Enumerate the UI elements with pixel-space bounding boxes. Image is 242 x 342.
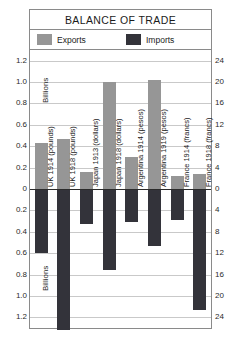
axis-tick-right: 8 bbox=[215, 228, 219, 236]
axis-tick-right: 12 bbox=[215, 249, 224, 257]
bar-category-label: France 1918 (francs) bbox=[204, 117, 213, 187]
axis-tick-left: 1.0 bbox=[16, 78, 27, 86]
axis-tick-left: 0.4 bbox=[16, 228, 27, 236]
legend-label-imports: Imports bbox=[146, 35, 174, 45]
axis-tick-right: 20 bbox=[215, 292, 224, 300]
bar-category-label: France 1914 (francs) bbox=[182, 117, 191, 187]
gridline bbox=[30, 82, 211, 83]
legend-swatch-imports bbox=[126, 34, 141, 45]
bar-imports bbox=[148, 189, 161, 246]
bar-imports bbox=[57, 189, 70, 330]
zero-axis-line bbox=[30, 189, 211, 190]
axis-tick-left: 0 bbox=[23, 185, 27, 193]
plot-area bbox=[30, 50, 211, 328]
bar-category-label: Japan 1918 (dollars) bbox=[114, 119, 123, 187]
axis-tick-right: 16 bbox=[215, 99, 224, 107]
axis-tick-right: 16 bbox=[215, 271, 224, 279]
axis-tick-left: 0.8 bbox=[16, 271, 27, 279]
axis-tick-right: 4 bbox=[215, 206, 219, 214]
legend-item-imports: Imports bbox=[126, 34, 174, 45]
chart-container: BALANCE OF TRADE Exports Imports 1.21.00… bbox=[0, 0, 242, 342]
gridline bbox=[30, 61, 211, 62]
chart-legend: Exports Imports bbox=[30, 30, 211, 50]
axis-tick-right: 12 bbox=[215, 121, 224, 129]
axis-tick-left: 0.2 bbox=[16, 164, 27, 172]
bar-imports bbox=[103, 189, 116, 270]
legend-label-exports: Exports bbox=[57, 35, 86, 45]
legend-swatch-exports bbox=[37, 34, 52, 45]
axis-tick-left: 0.4 bbox=[16, 142, 27, 150]
bar-category-label: Japan 1913 (dollars) bbox=[91, 119, 100, 187]
chart-title-band: BALANCE OF TRADE bbox=[30, 10, 211, 30]
bar-category-label: UK 1914 (pounds) bbox=[46, 126, 55, 187]
axis-tick-left: 1.0 bbox=[16, 292, 27, 300]
axis-tick-right: 24 bbox=[215, 57, 224, 65]
axis-tick-left: 1.2 bbox=[16, 57, 27, 65]
bar-imports bbox=[171, 189, 184, 220]
legend-item-exports: Exports bbox=[37, 34, 86, 45]
axis-tick-right: 8 bbox=[215, 142, 219, 150]
axis-tick-right: 24 bbox=[215, 313, 224, 321]
bar-category-label: Argentina 1914 (pesos) bbox=[136, 109, 145, 187]
axis-tick-left: 0.6 bbox=[16, 249, 27, 257]
bar-imports bbox=[80, 189, 93, 224]
bar-category-label: Argentina 1919 (pesos) bbox=[159, 109, 168, 187]
axis-tick-right: 4 bbox=[215, 164, 219, 172]
bar-imports bbox=[125, 189, 138, 222]
axis-tick-left: 0.6 bbox=[16, 121, 27, 129]
bar-imports bbox=[193, 189, 206, 310]
chart-title: BALANCE OF TRADE bbox=[65, 14, 176, 26]
gridline bbox=[30, 103, 211, 104]
bar-imports bbox=[35, 189, 48, 253]
axis-tick-left: 0.8 bbox=[16, 99, 27, 107]
bar-category-label: UK 1918 (pounds) bbox=[68, 126, 77, 187]
axis-label-left-lower: Billions bbox=[41, 265, 50, 290]
axis-tick-right: 20 bbox=[215, 78, 224, 86]
axis-tick-right: 0 bbox=[215, 185, 219, 193]
axis-tick-left: 0.2 bbox=[16, 206, 27, 214]
axis-tick-left: 1.2 bbox=[16, 313, 27, 321]
axis-label-left-upper: Billions bbox=[41, 78, 50, 103]
